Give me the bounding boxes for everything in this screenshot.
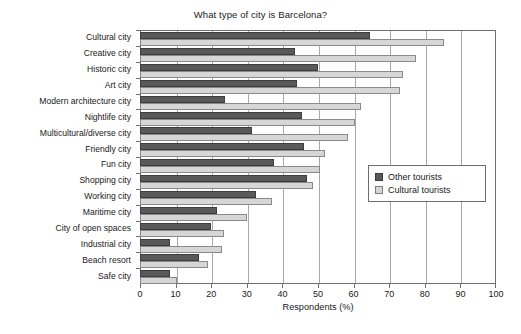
y-axis-tick-label: Multicultural/diverse city [40,128,131,138]
legend-label: Other tourists [388,172,442,182]
bar-group [140,252,496,268]
x-axis-tick-label: 80 [410,289,440,299]
bar-group [140,94,496,110]
bar-other [140,270,170,277]
y-axis-tick-label: Modern architecture city [39,96,131,106]
y-axis-tick-mark [136,30,140,31]
bar-other [140,112,302,119]
y-axis-tick-label: Friendly city [85,144,131,154]
x-axis-tick-label: 30 [232,289,262,299]
x-axis-tick-mark [176,284,177,288]
y-axis-tick-mark [136,94,140,95]
bar-group [140,125,496,141]
y-axis-tick-label: Historic city [87,64,131,74]
bar-group [140,268,496,284]
x-axis-title: Respondents (%) [140,302,496,312]
bar-other [140,207,217,214]
y-axis-tick-mark [136,252,140,253]
x-axis-tick-mark [495,284,496,288]
bar-other [140,48,295,55]
y-axis-tick-mark [136,189,140,190]
y-axis-tick-mark [136,62,140,63]
x-axis-tick-label: 70 [374,289,404,299]
chart-title: What type of city is Barcelona? [0,9,521,20]
x-axis-tick-label: 50 [303,289,333,299]
y-axis-tick-mark [136,157,140,158]
bar-other [140,143,304,150]
bar-other [140,175,307,182]
y-axis-tick-mark [136,141,140,142]
bar-other [140,254,199,261]
y-axis-tick-mark [136,221,140,222]
chart-legend: Other touristsCultural tourists [368,165,486,202]
bar-group [140,205,496,221]
chart-container: What type of city is Barcelona? Cultural… [0,0,521,334]
x-axis-tick-mark [425,284,426,288]
bar-other [140,64,318,71]
x-axis-tick-mark [140,284,141,288]
x-axis-tick-mark [211,284,212,288]
bar-group [140,62,496,78]
y-axis-tick-label: Beach resort [82,255,131,265]
legend-label: Cultural tourists [388,185,451,195]
bar-group [140,46,496,62]
y-axis-tick-label: Working city [84,191,131,201]
y-axis-tick-mark [136,173,140,174]
y-axis-tick-mark [136,78,140,79]
x-axis-tick-mark [460,284,461,288]
y-axis-labels: Cultural cityCreative cityHistoric cityA… [0,30,136,284]
bar-other [140,80,297,87]
y-axis-tick-mark [136,125,140,126]
legend-item-cultural[interactable]: Cultural tourists [375,183,479,196]
bar-other [140,191,256,198]
x-axis-tick-mark [318,284,319,288]
x-axis-tick-mark [389,284,390,288]
bar-group [140,78,496,94]
x-axis-tick-mark [247,284,248,288]
bar-other [140,223,211,230]
bar-group [140,221,496,237]
bar-group [140,109,496,125]
y-axis-tick-mark [136,109,140,110]
y-axis-tick-mark [136,236,140,237]
y-axis-tick-label: Cultural city [86,32,131,42]
y-axis-tick-label: Fun city [101,159,131,169]
y-axis-tick-mark [136,46,140,47]
x-axis-tick-label: 60 [339,289,369,299]
legend-item-other[interactable]: Other tourists [375,170,479,183]
y-axis-tick-label: Industrial city [81,239,131,249]
y-axis-tick-label: Safe city [98,271,131,281]
legend-swatch-icon [375,186,383,194]
x-axis-tick-mark [282,284,283,288]
bar-other [140,32,370,39]
legend-swatch-icon [375,173,383,181]
y-axis-tick-label: City of open spaces [56,223,131,233]
x-axis-tick-label: 0 [125,289,155,299]
y-axis-tick-label: Shopping city [79,175,131,185]
x-axis-tick-label: 90 [445,289,475,299]
y-axis-tick-label: Maritime city [83,207,131,217]
y-axis-tick-mark [136,268,140,269]
bar-other [140,96,225,103]
x-axis-tick-mark [354,284,355,288]
bar-other [140,239,170,246]
bar-group [140,236,496,252]
x-axis-tick-label: 100 [481,289,511,299]
x-axis-tick-label: 40 [267,289,297,299]
bar-group [140,141,496,157]
bar-group [140,30,496,46]
y-axis-tick-label: Nightlife city [85,112,131,122]
y-axis-tick-label: Creative city [84,48,131,58]
bar-other [140,127,252,134]
x-axis-tick-label: 10 [161,289,191,299]
x-axis-tick-label: 20 [196,289,226,299]
y-axis-tick-mark [136,205,140,206]
bars-layer [140,30,496,284]
bar-other [140,159,274,166]
y-axis-tick-label: Art city [105,80,131,90]
